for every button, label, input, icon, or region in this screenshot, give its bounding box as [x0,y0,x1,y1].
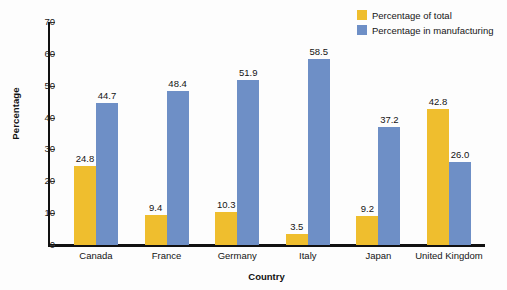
bar-group: 24.844.7 [74,22,118,245]
legend-label-total: Percentage of total [372,10,452,21]
legend-swatch-icon-total [357,10,367,20]
bar-group: 3.558.5 [286,22,330,245]
bar-total: 9.4 [145,215,167,245]
bar-manufacturing: 44.7 [96,103,118,245]
bar-value-label: 51.9 [239,68,258,78]
bar-group: 42.826.0 [427,22,471,245]
bar-manufacturing: 37.2 [378,127,400,246]
plot-area: 24.844.79.448.410.351.93.558.59.237.242.… [48,22,485,245]
bar-value-label: 9.2 [361,204,374,214]
bar-value-label: 37.2 [380,115,399,125]
bar-total: 3.5 [286,234,308,245]
bar-value-label: 58.5 [310,47,329,57]
bar-total: 42.8 [427,109,449,245]
x-axis-title: Country [48,271,485,282]
x-tick-label-united-kingdom: United Kingdom [399,250,499,261]
y-tick-mark [50,245,55,246]
bar-manufacturing: 51.9 [237,80,259,245]
bar-value-label: 3.5 [290,222,303,232]
bar-value-label: 42.8 [429,97,448,107]
legend-item-percentage-of-total: Percentage of total [357,9,493,21]
bar-value-label: 44.7 [98,91,117,101]
bar-chart: Percentage of total Percentage in manufa… [0,0,507,290]
bar-manufacturing: 26.0 [449,162,471,245]
bar-manufacturing: 48.4 [167,91,189,245]
bar-value-label: 10.3 [217,200,236,210]
bar-total: 9.2 [356,216,378,245]
bar-value-label: 24.8 [76,154,95,164]
bar-value-label: 26.0 [451,150,470,160]
bar-group: 9.237.2 [356,22,400,245]
bar-total: 24.8 [74,166,96,245]
bar-total: 10.3 [215,212,237,245]
bar-group: 10.351.9 [215,22,259,245]
bar-manufacturing: 58.5 [308,59,330,245]
bar-group: 9.448.4 [145,22,189,245]
bar-value-label: 48.4 [168,79,187,89]
bar-value-label: 9.4 [149,203,162,213]
